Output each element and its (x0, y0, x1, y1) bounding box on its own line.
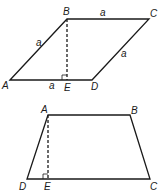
side-cd-label: a (121, 48, 127, 59)
rhombus-outline (10, 19, 149, 80)
vertex-c-label: C (150, 181, 158, 192)
trapezoid-figure: A B D E C (19, 104, 158, 192)
vertex-d-label: D (91, 81, 98, 92)
vertex-d-label: D (19, 181, 26, 192)
vertex-b-label: B (131, 105, 138, 116)
trapezoid-outline (27, 115, 150, 179)
vertex-b-label: B (63, 6, 70, 17)
rhombus-figure: B C A D E a a a a (1, 6, 158, 93)
vertex-c-label: C (150, 8, 158, 19)
geometry-diagram: B C A D E a a a a A B D E C (0, 0, 168, 195)
right-angle-marker (62, 75, 67, 80)
vertex-e-label: E (64, 82, 71, 93)
side-ae-label: a (49, 80, 55, 91)
vertex-a-label: A (1, 80, 9, 91)
vertex-e-label: E (44, 181, 51, 192)
side-bc-label: a (100, 7, 106, 18)
side-ab-label: a (36, 37, 42, 48)
right-angle-marker (43, 174, 48, 179)
vertex-a-label: A (40, 104, 48, 115)
